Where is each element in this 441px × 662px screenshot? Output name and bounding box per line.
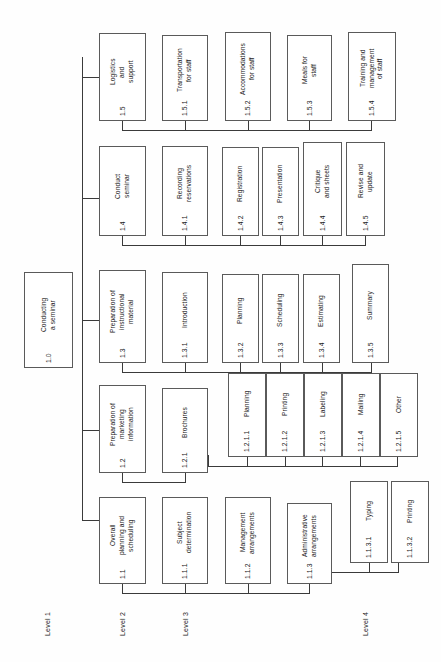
connector-1-2-drop: [122, 473, 123, 483]
wbs-node-1-5-3-label: Meals for staff: [301, 56, 319, 84]
connector-spine-to-1-5: [82, 77, 100, 78]
connector-1-4-5-drop: [365, 236, 366, 246]
connector-1-5-drop: [122, 121, 123, 131]
wbs-node-1-5-3[interactable]: 1.5.3 Meals for staff: [287, 35, 332, 121]
connector-spine-to-1-3: [82, 320, 100, 321]
wbs-node-1-3-5[interactable]: 1.3.5 Summary: [352, 264, 389, 363]
wbs-node-1-2-1-4-label: Mailing: [357, 393, 366, 415]
wbs-node-1-4-1[interactable]: 1.4.1 Recording reservations: [162, 146, 208, 236]
connector-bus-1-2: [122, 482, 186, 483]
wbs-node-1-3-2-label: Planning: [236, 297, 245, 323]
wbs-node-1-3-4-code: 1.3.4: [317, 342, 326, 358]
wbs-node-1-5-code: 1.5: [118, 106, 127, 116]
connector-spine-to-1-4: [82, 198, 100, 199]
connector-1-2-1-riser: [208, 455, 209, 467]
connector-1-3-2-drop: [240, 363, 241, 373]
wbs-node-1-4-5-label: Revise and update: [357, 164, 375, 198]
wbs-node-1-4-2[interactable]: 1.4.2 Registration: [222, 147, 259, 236]
wbs-node-1-1-3-2-label: Printing: [406, 500, 415, 523]
wbs-node-1-5[interactable]: 1.5 Logistics and support: [99, 33, 146, 121]
connector-1-4-1-drop: [185, 236, 186, 246]
connector-1-3-1-drop: [185, 363, 186, 373]
wbs-node-1-4-2-code: 1.4.2: [236, 215, 245, 231]
wbs-node-1-3-2[interactable]: 1.3.2 Planning: [222, 274, 259, 363]
wbs-node-1-4-3[interactable]: 1.4.3 Presentation: [262, 147, 299, 236]
connector-1-1-drop: [122, 584, 123, 594]
wbs-node-1-3-1[interactable]: 1.3.1 Introduction: [162, 272, 208, 363]
wbs-node-1-3-label: Preparation of instructional material: [109, 290, 136, 333]
wbs-node-1-1-3-1[interactable]: 1.1.3.1 Typing: [350, 481, 388, 563]
connector-spine-to-1-2: [82, 430, 100, 431]
wbs-node-1-5-2[interactable]: 1.5.2 Accommodations for staff: [225, 32, 271, 121]
wbs-node-1-4-4-label: Critique and sheets: [314, 165, 332, 198]
wbs-node-1-1[interactable]: 1.1 Overall planning and scheduling: [99, 497, 146, 584]
wbs-node-1-2-1-3-label: Labeling: [319, 391, 328, 417]
connector-1-4-2-drop: [240, 236, 241, 246]
connector-level2-spine: [82, 57, 83, 521]
wbs-node-1-4[interactable]: 1.4 Conduct seminar: [99, 146, 146, 236]
wbs-node-1-2-1-2[interactable]: 1.2.1.2 Printing: [266, 373, 304, 457]
wbs-node-1-1-3[interactable]: 1.1.3 Administrative arrangements: [287, 503, 332, 584]
connector-1-2-1-2-drop: [285, 457, 286, 467]
connector-1-1-3-1-drop: [369, 563, 370, 573]
wbs-node-1-2-1-3[interactable]: 1.2.1.3 Labeling: [304, 373, 342, 457]
connector-1-3-3-drop: [280, 363, 281, 373]
wbs-node-1-5-3-code: 1.5.3: [305, 100, 314, 116]
wbs-node-root-code: 1.0: [44, 353, 53, 363]
wbs-node-1-4-code: 1.4: [118, 221, 127, 231]
wbs-node-1-3-4[interactable]: 1.3.4 Estimating: [303, 274, 340, 363]
wbs-node-1-2[interactable]: 1.2 Preparation of marketing information: [99, 385, 146, 473]
wbs-node-1-2-1-label: Brochures: [181, 407, 190, 438]
wbs-node-1-4-4-code: 1.4.4: [318, 215, 327, 231]
connector-1-3-5-drop: [371, 363, 372, 373]
wbs-node-1-1-code: 1.1: [118, 569, 127, 579]
wbs-node-root[interactable]: 1.0 Conducting a seminar: [24, 272, 73, 368]
connector-bus-1-4: [122, 245, 366, 246]
wbs-node-1-1-3-2[interactable]: 1.1.3.2 Printing: [391, 481, 429, 563]
wbs-node-root-label: Conducting a seminar: [40, 298, 58, 332]
connector-1-5-3-drop: [309, 121, 310, 131]
wbs-node-1-5-1[interactable]: 1.5.1 Transportation for staff: [162, 35, 208, 121]
wbs-node-1-5-2-code: 1.5.2: [243, 100, 252, 116]
wbs-node-1-3-3[interactable]: 1.3.3 Scheduling: [262, 274, 299, 363]
wbs-node-1-1-3-2-code: 1.1.3.2: [405, 537, 414, 559]
wbs-node-1-3[interactable]: 1.3 Preparation of instructional materia…: [99, 270, 146, 363]
connector-1-1-3-drop: [309, 584, 310, 594]
wbs-node-1-1-3-1-code: 1.1.3.1: [364, 537, 373, 559]
connector-1-4-drop: [122, 236, 123, 246]
connector-1-2-1-1-drop: [247, 457, 248, 467]
wbs-node-1-1-2[interactable]: 1.1.2 Management arrangements: [225, 497, 271, 584]
wbs-node-1-4-1-label: Recording reservations: [176, 165, 194, 202]
wbs-node-1-4-2-label: Registration: [236, 165, 245, 201]
wbs-node-1-3-2-code: 1.3.2: [236, 342, 245, 358]
connector-1-2-1-4-drop: [360, 457, 361, 467]
wbs-node-1-3-1-label: Introduction: [181, 292, 190, 328]
wbs-node-1-2-1-3-code: 1.2.1.3: [318, 431, 327, 453]
wbs-node-1-5-4[interactable]: 1.5.4 Training and management of staff: [348, 32, 396, 121]
wbs-node-1-1-1[interactable]: 1.1.1 Subject determination: [162, 497, 208, 584]
wbs-node-1-1-1-label: Subject determination: [176, 512, 194, 553]
wbs-node-1-2-1-1[interactable]: 1.2.1.1 Planning: [228, 373, 266, 457]
wbs-node-1-4-5[interactable]: 1.4.5 Revise and update: [346, 142, 385, 236]
wbs-node-1-2-1-5-label: Other: [395, 396, 404, 413]
connector-1-3-4-drop: [322, 363, 323, 373]
wbs-node-1-3-5-code: 1.3.5: [366, 342, 375, 358]
wbs-node-1-1-3-1-label: Typing: [365, 501, 374, 521]
connector-1-2-1-5-drop: [397, 457, 398, 467]
wbs-node-1-4-1-code: 1.4.1: [180, 215, 189, 231]
wbs-node-1-2-label: Preparation of marketing information: [109, 403, 136, 446]
level-caption-4: Level 4: [362, 612, 369, 636]
wbs-node-1-4-4[interactable]: 1.4.4 Critique and sheets: [303, 142, 342, 236]
connector-1-5-4-drop: [371, 121, 372, 131]
wbs-node-1-1-2-code: 1.1.2: [243, 563, 252, 579]
connector-bus-1-5: [122, 130, 372, 131]
wbs-node-1-2-1-code: 1.2.1: [180, 452, 189, 468]
connector-1-4-3-drop: [280, 236, 281, 246]
connector-bus-1-1: [122, 593, 310, 594]
wbs-diagram-canvas: 1.0 Conducting a seminar 1.1 Overall pla…: [0, 0, 441, 662]
wbs-node-1-2-1-4[interactable]: 1.2.1.4 Mailing: [342, 373, 380, 457]
wbs-node-1-2-1[interactable]: 1.2.1 Brochures: [162, 388, 208, 473]
wbs-node-1-2-1-5[interactable]: 1.2.1.5 Other: [380, 373, 418, 457]
wbs-node-1-1-3-label: Administrative arrangements: [301, 514, 319, 557]
connector-1-5-2-drop: [248, 121, 249, 131]
